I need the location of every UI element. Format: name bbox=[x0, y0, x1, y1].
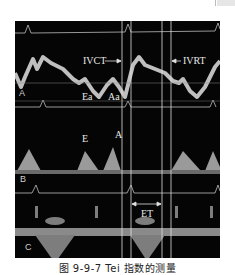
doppler-figure: IVCT IVRT Ea Aa E A ET A B C bbox=[15, 21, 220, 258]
panel-b-baseline bbox=[15, 170, 220, 174]
panel-a-label: A bbox=[19, 88, 25, 98]
ivct-label: IVCT bbox=[83, 56, 106, 66]
page-corner-mark bbox=[217, 0, 235, 6]
panel-b-mitral-inflow bbox=[17, 147, 220, 171]
page-corner-tick bbox=[215, 0, 216, 6]
et-label: ET bbox=[141, 209, 153, 219]
panel-c-outflow bbox=[15, 206, 220, 258]
a-wave-label: A bbox=[115, 130, 122, 140]
panel-c-label: C bbox=[25, 242, 32, 252]
figure-caption: 图 9-9-7 Tei 指数的测量 bbox=[0, 260, 235, 275]
panel-b-label: B bbox=[20, 174, 26, 184]
e-wave-label: E bbox=[82, 134, 88, 144]
ea-label: Ea bbox=[82, 92, 93, 102]
ivrt-label: IVRT bbox=[183, 56, 206, 66]
aa-label: Aa bbox=[108, 92, 120, 102]
